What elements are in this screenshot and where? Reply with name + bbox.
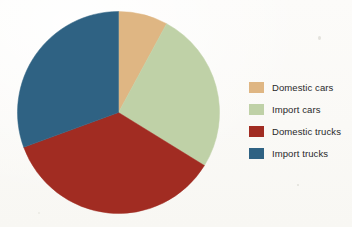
pie-slices-group [18, 12, 220, 214]
legend-swatch-import-cars [249, 104, 264, 115]
chart-legend: Domestic cars Import cars Domestic truck… [249, 76, 352, 164]
legend-swatch-domestic-cars [249, 82, 264, 93]
legend-swatch-import-trucks [249, 148, 264, 159]
pie-chart-svg [0, 0, 240, 227]
chart-plot-area [0, 0, 240, 227]
scan-speckle [318, 36, 321, 40]
legend-label-import-trucks: Import trucks [272, 148, 328, 159]
legend-item-import-trucks[interactable]: Import trucks [249, 142, 352, 164]
legend-label-import-cars: Import cars [272, 104, 321, 115]
legend-item-import-cars[interactable]: Import cars [249, 98, 352, 120]
legend-label-domestic-trucks: Domestic trucks [272, 126, 341, 137]
legend-item-domestic-trucks[interactable]: Domestic trucks [249, 120, 352, 142]
legend-label-domestic-cars: Domestic cars [272, 82, 333, 93]
legend-item-domestic-cars[interactable]: Domestic cars [249, 76, 352, 98]
legend-swatch-domestic-trucks [249, 126, 264, 137]
pie-chart-screenshot: Domestic cars Import cars Domestic truck… [0, 0, 352, 227]
scan-speckle [297, 184, 299, 186]
